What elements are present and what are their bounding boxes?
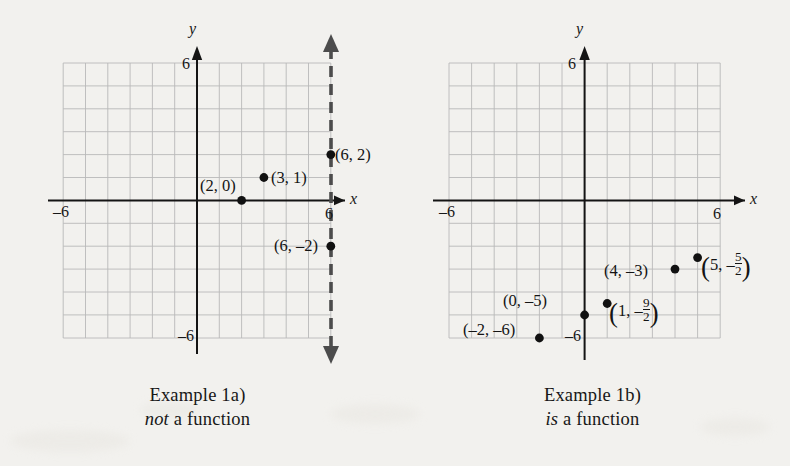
- y-axis-arrow: [579, 46, 589, 60]
- denominator: 2: [735, 263, 742, 277]
- x-tick-positive-1a: 6: [325, 205, 333, 223]
- point-neg2-neg6: [535, 334, 544, 343]
- caption-1b-rest: a function: [558, 409, 639, 429]
- x-tick-negative-1b: –6: [439, 203, 455, 221]
- point-label-1-neg4p5: (1, –92): [609, 296, 659, 324]
- denominator: 2: [643, 309, 650, 323]
- label-text: 1, –: [618, 301, 643, 320]
- point-label-5-neg2p5: (5, –52): [701, 250, 751, 278]
- fraction-9-2: 92: [643, 296, 650, 324]
- point-2-0: [237, 196, 246, 205]
- point-6-neg2: [326, 242, 335, 251]
- numerator: 5: [735, 250, 742, 263]
- paren-close: ): [742, 258, 751, 277]
- x-tick-negative-1a: –6: [53, 203, 69, 221]
- point-label-6-2: (6, 2): [335, 147, 371, 164]
- axes-1a: [48, 46, 345, 354]
- point-label-3-1: (3, 1): [271, 170, 307, 187]
- y-tick-negative-1b: –6: [565, 327, 581, 345]
- point-4-neg3: [671, 265, 680, 274]
- point-label-0-neg5: (0, –5): [503, 293, 547, 310]
- x-axis-label-1b: x: [750, 190, 757, 208]
- panel-example-1a: x y 6 –6 –6 6 (2, 0) (3, 1) (6, 2) (6, –…: [0, 0, 395, 466]
- x-axis-arrow: [334, 196, 345, 206]
- x-tick-positive-1b: 6: [713, 205, 721, 223]
- caption-1a-rest: a function: [169, 409, 250, 429]
- y-tick-positive-1b: 6: [568, 55, 576, 73]
- y-axis-label-1b: y: [576, 20, 583, 38]
- paren-open: (: [609, 304, 618, 323]
- dashed-line-arrow-down: [323, 346, 339, 364]
- point-label-neg2-neg6: (–2, –6): [463, 322, 515, 339]
- caption-1b-emphasis: is: [545, 409, 558, 429]
- x-axis-arrow: [734, 196, 745, 206]
- figure-stage: x y 6 –6 –6 6 (2, 0) (3, 1) (6, 2) (6, –…: [0, 0, 790, 466]
- point-0-neg5: [580, 311, 589, 320]
- dashed-line-arrow-up: [323, 34, 339, 52]
- point-3-1: [260, 173, 269, 182]
- panel-example-1b: x y 6 –6 –6 6 (–2, –6) (0, –5) (1, –92) …: [395, 0, 790, 466]
- label-text: 5, –: [710, 255, 735, 274]
- point-label-2-0: (2, 0): [200, 178, 236, 195]
- caption-1a-line1: Example 1a): [0, 383, 395, 407]
- caption-1b-line1: Example 1b): [395, 383, 790, 407]
- caption-1a-line2: not a function: [0, 407, 395, 431]
- paren-close: ): [650, 304, 659, 323]
- fraction-5-2: 52: [735, 250, 742, 278]
- point-6-2: [326, 150, 335, 159]
- axes-1b: [433, 46, 745, 360]
- y-tick-positive-1a: 6: [182, 55, 190, 73]
- y-tick-negative-1a: –6: [178, 327, 194, 345]
- caption-1a: Example 1a) not a function: [0, 383, 395, 432]
- caption-1b: Example 1b) is a function: [395, 383, 790, 432]
- point-label-6-neg2: (6, –2): [274, 238, 318, 255]
- x-axis-label-1a: x: [350, 190, 357, 208]
- y-axis-arrow: [192, 46, 202, 60]
- point-label-4-neg3: (4, –3): [604, 263, 648, 280]
- caption-1b-line2: is a function: [395, 407, 790, 431]
- caption-1a-emphasis: not: [145, 409, 169, 429]
- paren-open: (: [701, 258, 710, 277]
- y-axis-label-1a: y: [189, 20, 196, 38]
- graph-1b: [425, 24, 755, 364]
- numerator: 9: [643, 296, 650, 309]
